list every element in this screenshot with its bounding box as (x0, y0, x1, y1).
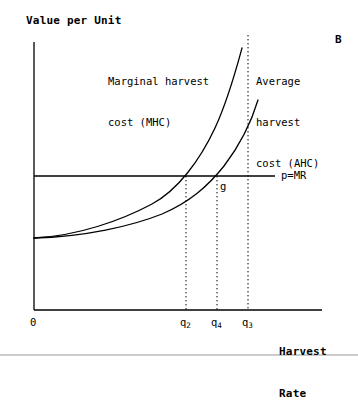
axis-x-title-line1: Harvest (279, 345, 327, 359)
origin-label: 0 (30, 316, 36, 330)
x-tick-q4-subscript: 4 (217, 321, 222, 330)
axis-x-title-line2: Rate (279, 387, 327, 401)
axis-y-title: Value per Unit (26, 14, 122, 28)
point-g-label: g (220, 180, 226, 194)
x-tick-label-q3: q3 (242, 316, 253, 330)
panel-letter: B (335, 33, 342, 47)
x-tick-label-q2: q2 (180, 316, 191, 330)
ahc-label-line1: Average (256, 75, 319, 89)
mhc-label-line2: cost (MHC) (108, 116, 209, 130)
ahc-label-line2: harvest (256, 116, 319, 130)
x-tick-label-q4: q4 (211, 316, 222, 330)
axis-x-title: Harvest Rate (279, 316, 327, 401)
mhc-label-line1: Marginal harvest (108, 75, 209, 89)
x-tick-q2-subscript: 2 (186, 321, 191, 330)
x-tick-q3-subscript: 3 (248, 321, 253, 330)
price-mr-label: p=MR (281, 169, 306, 183)
mhc-curve-label: Marginal harvest cost (MHC) (108, 48, 209, 157)
